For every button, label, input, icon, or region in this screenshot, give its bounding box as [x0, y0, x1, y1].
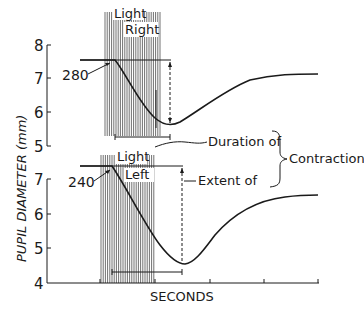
bottom-light-label: Light: [117, 149, 149, 164]
tick-label: 7: [34, 70, 44, 88]
tick-label: 4: [34, 275, 44, 293]
top-light-label: Light: [114, 6, 146, 21]
tick-label: 8: [34, 37, 44, 55]
tick-label: 6: [34, 206, 44, 224]
y-axis-label: PUPIL DIAMETER (mm): [14, 115, 29, 262]
x-axis-label: SECONDS: [150, 289, 214, 304]
duration-leader: [155, 142, 207, 147]
x-axis: SECONDS: [47, 279, 319, 304]
chart-svg: PUPIL DIAMETER (mm) 8 7 6 5 7 6 5 4 SECO…: [0, 0, 364, 315]
top-y-axis: 8 7 6 5: [34, 37, 51, 156]
duration-label: Duration of: [208, 134, 282, 149]
bottom-y-axis: 7 6 5 4: [34, 171, 51, 293]
bottom-latency-label: 240: [68, 174, 95, 190]
contraction-label: Contraction: [289, 151, 364, 166]
pupil-response-figure: PUPIL DIAMETER (mm) 8 7 6 5 7 6 5 4 SECO…: [0, 0, 364, 315]
tick-label: 6: [34, 104, 44, 122]
top-side-label: Right: [125, 22, 159, 37]
bottom-side-label: Left: [125, 167, 149, 182]
tick-label: 5: [34, 138, 44, 156]
tick-label: 5: [34, 240, 44, 258]
extent-label: Extent of: [198, 173, 257, 188]
top-latency-label: 280: [62, 67, 89, 83]
tick-label: 7: [34, 171, 44, 189]
